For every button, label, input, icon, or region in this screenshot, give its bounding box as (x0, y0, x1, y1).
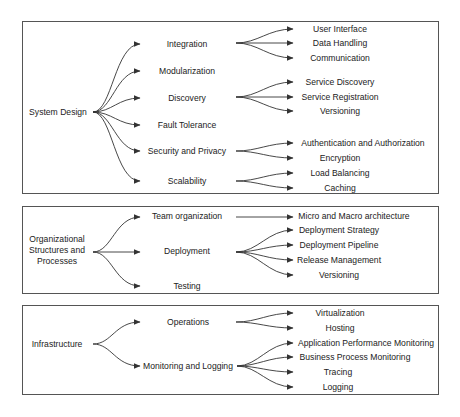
leaf-service-registration: Service Registration (302, 92, 379, 102)
leaf-virtualization: Virtualization (315, 308, 364, 318)
leaf-communication: Communication (310, 53, 370, 63)
node-team-organization: Team organization (152, 211, 222, 221)
node-monitoring-logging: Monitoring and Logging (143, 361, 233, 371)
root-line-1: Organizational (20, 234, 95, 245)
leaf-data-handling: Data Handling (313, 38, 367, 48)
leaf-service-discovery: Service Discovery (306, 77, 375, 87)
leaf-encryption: Encryption (320, 153, 361, 163)
leaf-business-process-monitoring: Business Process Monitoring (300, 352, 411, 362)
leaf-deployment-pipeline: Deployment Pipeline (300, 240, 379, 250)
node-security-privacy: Security and Privacy (148, 146, 226, 156)
leaf-release-management: Release Management (297, 255, 381, 265)
root-node-organizational: Organizational Structures and Processes (20, 234, 95, 267)
root-node-system-design: System Design (29, 107, 87, 117)
leaf-versioning: Versioning (320, 106, 360, 116)
node-modularization: Modularization (159, 66, 215, 76)
root-line-2: Structures and (20, 245, 95, 256)
node-scalability: Scalability (168, 176, 207, 186)
leaf-hosting: Hosting (325, 323, 354, 333)
leaf-logging: Logging (323, 382, 354, 392)
node-integration: Integration (167, 39, 208, 49)
section-infrastructure (22, 305, 439, 395)
node-fault-tolerance: Fault Tolerance (158, 120, 217, 130)
leaf-user-interface: User Interface (313, 24, 367, 34)
leaf-deployment-strategy: Deployment Strategy (299, 225, 379, 235)
leaf-caching: Caching (324, 183, 356, 193)
root-line-3: Processes (20, 256, 95, 267)
node-discovery: Discovery (168, 93, 206, 103)
node-deployment: Deployment (164, 246, 210, 256)
leaf-application-performance-monitoring: Application Performance Monitoring (298, 338, 434, 348)
leaf-load-balancing: Load Balancing (310, 168, 369, 178)
node-testing: Testing (173, 281, 200, 291)
leaf-micro-macro-architecture: Micro and Macro architecture (298, 211, 409, 221)
leaf-authentication-authorization: Authentication and Authorization (301, 138, 424, 148)
leaf-versioning-deploy: Versioning (319, 270, 359, 280)
leaf-tracing: Tracing (324, 367, 352, 377)
root-node-infrastructure: Infrastructure (32, 339, 83, 349)
node-operations: Operations (167, 317, 209, 327)
